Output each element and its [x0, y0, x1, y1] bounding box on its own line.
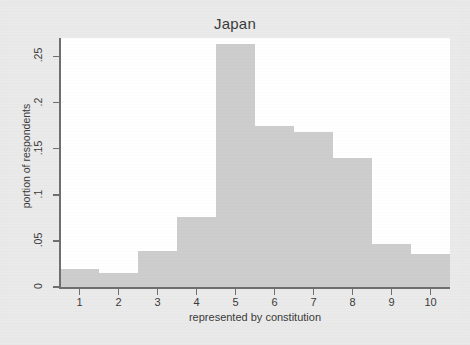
- x-tick-label: 2: [104, 296, 134, 308]
- x-tick-label: 8: [338, 296, 368, 308]
- x-tick-label: 1: [65, 296, 95, 308]
- x-tick: [118, 289, 120, 295]
- y-tick-label: .05: [32, 228, 44, 252]
- y-tick-label: .1: [32, 182, 44, 206]
- x-tick: [79, 289, 81, 295]
- x-tick-label: 3: [143, 296, 173, 308]
- bar: [411, 254, 450, 287]
- x-tick: [352, 289, 354, 295]
- bar: [372, 244, 411, 287]
- x-tick: [274, 289, 276, 295]
- y-tick-label: .15: [32, 136, 44, 160]
- x-tick: [235, 289, 237, 295]
- y-axis-line: [59, 38, 61, 288]
- y-tick-label: .2: [32, 90, 44, 114]
- bar: [138, 251, 177, 287]
- y-tick: [53, 102, 59, 104]
- bar: [333, 158, 372, 287]
- x-tick: [157, 289, 159, 295]
- y-axis-title: portion of respondents: [20, 86, 32, 226]
- y-tick: [53, 148, 59, 150]
- bar: [294, 132, 333, 287]
- x-tick-label: 6: [260, 296, 290, 308]
- y-tick: [53, 194, 59, 196]
- y-tick-label: .25: [32, 43, 44, 67]
- y-tick: [53, 286, 59, 288]
- y-tick: [53, 56, 59, 58]
- bar: [216, 44, 255, 287]
- x-tick: [430, 289, 432, 295]
- y-tick-label: 0: [32, 274, 44, 298]
- figure: Japan 0.05.1.15.2.25 12345678910 portion…: [0, 0, 470, 345]
- x-tick-label: 7: [299, 296, 329, 308]
- x-tick-label: 5: [221, 296, 251, 308]
- x-tick: [313, 289, 315, 295]
- bar: [255, 126, 294, 287]
- y-tick: [53, 240, 59, 242]
- bar: [177, 217, 216, 287]
- x-tick-label: 9: [377, 296, 407, 308]
- x-tick: [391, 289, 393, 295]
- x-tick-label: 4: [182, 296, 212, 308]
- x-axis-title: represented by constitution: [60, 311, 450, 323]
- x-tick-label: 10: [416, 296, 446, 308]
- bar: [99, 273, 138, 287]
- x-tick: [196, 289, 198, 295]
- bar: [60, 269, 99, 287]
